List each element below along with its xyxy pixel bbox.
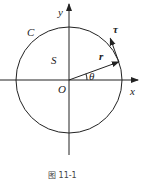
label-tau: τ [113, 23, 119, 35]
figure-caption: 图 11-1 [48, 171, 77, 179]
label-c: C [27, 26, 35, 38]
label-origin: O [58, 83, 66, 95]
circle-diagram: y C S r τ θ O x 图 11-1 [0, 0, 143, 179]
label-x: x [129, 85, 135, 97]
label-theta: θ [89, 70, 95, 82]
tangent-vector-arrow [110, 38, 119, 62]
label-y: y [57, 6, 63, 18]
label-r: r [99, 50, 104, 62]
angle-arc [86, 74, 87, 80]
label-s: S [51, 54, 57, 66]
